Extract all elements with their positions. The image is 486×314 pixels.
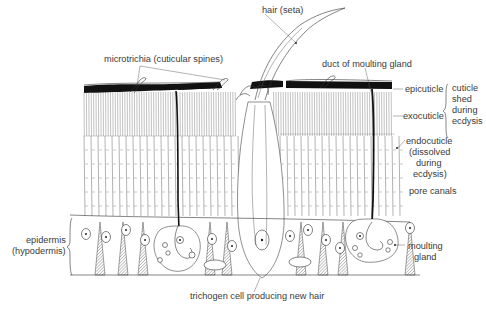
label-endocuticle-2: (dissolved [409,147,450,157]
texture-line [189,136,190,216]
texture-line [378,136,379,216]
texture-line [119,136,120,216]
label-hair: hair (seta) [262,5,303,15]
label-epidermis-2: (hypodermis) [12,246,66,256]
texture-line [84,136,85,216]
label-moulting-gland-1: moulting [408,241,443,251]
texture-line [287,136,288,216]
label-duct: duct of moulting gland [322,59,412,69]
texture-line [231,136,232,216]
nucleolus [85,233,87,235]
nucleolus [125,229,127,231]
texture-line [161,136,162,216]
texture-line [315,136,316,216]
label-exocuticle: exocuticle [403,111,444,121]
texture-line [140,136,141,216]
texture-line [301,136,302,216]
label-pore-canals: pore canals [409,186,457,196]
texture-line [294,136,295,216]
label-cuticle-shed-3: during [452,105,478,115]
nucleolus [409,227,411,229]
nucleolus [289,235,291,237]
label-moulting-gland-2: gland [414,252,436,262]
texture-line [147,136,148,216]
texture-line [91,136,92,216]
texture-line [154,136,155,216]
nucleolus [105,236,107,238]
supporting-cell [95,222,105,275]
texture-line [133,136,134,216]
nucleolus [144,239,146,241]
texture-line [371,136,372,216]
label-trichogen: trichogen cell producing new hair [190,291,324,301]
moulting-gland-right [346,219,399,262]
trichogen-cell [237,102,284,278]
label-epicuticle: epicuticle [405,84,443,94]
texture-line [168,136,169,216]
nucleolus [231,245,233,247]
label-microtrichia: microtrichia (cuticular spines) [104,54,223,64]
texture-line [224,136,225,216]
label-endocuticle-1: endocuticle [406,136,452,146]
texture-line [392,136,393,216]
exocuticle-layer [84,92,395,136]
texture-line [203,136,204,216]
label-endocuticle-3: during [416,158,442,168]
texture-line [399,136,400,216]
texture-line [364,136,365,216]
nucleolus [211,238,213,240]
texture-line [336,136,337,216]
texture-line [308,136,309,216]
texture-line [322,136,323,216]
label-cuticle-shed-1: cuticle [452,83,478,93]
cuticle-diagram: microtrichia (cuticular spines) hair (se… [0,0,486,314]
texture-line [105,136,106,216]
label-cuticle-shed-4: ecdysis [452,116,483,126]
texture-line [98,136,99,216]
texture-line [343,136,344,216]
texture-line [112,136,113,216]
label-cuticle-shed-2: shed [452,94,472,104]
texture-line [210,136,211,216]
basal-cell [204,260,226,270]
texture-line [175,136,176,216]
nucleolus [339,247,341,249]
texture-line [182,136,183,216]
basal-cell [289,257,311,267]
supporting-cell [138,222,148,275]
supporting-cell [318,222,328,275]
texture-line [217,136,218,216]
label-endocuticle-4: ecdysis) [413,169,447,179]
moulting-gland-left [154,226,200,271]
texture-line [385,136,386,216]
label-epidermis-1: epidermis [26,235,66,245]
epicuticle-layer [84,80,392,94]
nucleolus [325,239,327,241]
texture-line [329,136,330,216]
texture-line [350,136,351,216]
texture-line [126,136,127,216]
texture-line [357,136,358,216]
nucleolus [307,229,309,231]
texture-line [196,136,197,216]
